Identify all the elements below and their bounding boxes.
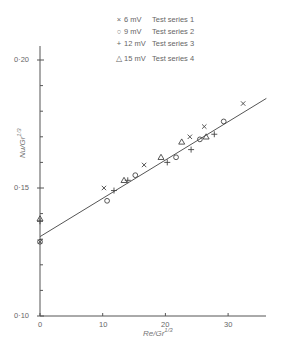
triangle-marker-icon — [158, 154, 164, 159]
o-marker-icon — [133, 173, 138, 178]
x-tick-label-10: 10 — [99, 320, 107, 329]
y-tick-label-015: 0·15 — [14, 183, 29, 192]
data-points — [37, 101, 245, 244]
y-tick-label-010: 0·10 — [14, 311, 29, 320]
x-marker-icon — [142, 163, 146, 167]
legend-voltage: 12 mV — [124, 38, 152, 50]
legend-voltage: 15 mV — [124, 53, 152, 65]
legend-label: Test series 4 — [152, 53, 194, 65]
x-marker-icon — [102, 186, 106, 190]
legend-item-series-4: △ 15 mV Test series 4 — [114, 53, 194, 65]
axes — [37, 46, 266, 316]
o-marker-icon — [174, 155, 179, 160]
y-axis-title: Nu/Gr1/3 — [16, 128, 27, 158]
x-marker-icon — [202, 124, 206, 128]
triangle-marker-icon — [179, 139, 185, 144]
x-marker-icon — [188, 135, 192, 139]
legend-label: Test series 2 — [152, 26, 194, 38]
regression-line — [40, 98, 266, 236]
circle-marker-icon: ○ — [114, 26, 124, 38]
legend-voltage: 9 mV — [124, 26, 152, 38]
legend-item-series-1: × 6 mV Test series 1 — [114, 14, 194, 26]
plus-marker-icon: + — [114, 38, 124, 50]
legend-item-series-2: ○ 9 mV Test series 2 — [114, 26, 194, 38]
+-marker-icon — [211, 131, 217, 137]
legend-item-series-3: + 12 mV Test series 3 — [114, 38, 194, 50]
x-tick-label-30: 30 — [224, 320, 232, 329]
legend-label: Test series 1 — [152, 14, 194, 26]
+-marker-icon — [188, 147, 194, 153]
triangle-marker-icon: △ — [114, 53, 124, 65]
legend: × 6 mV Test series 1 ○ 9 mV Test series … — [114, 14, 194, 65]
o-marker-icon — [221, 119, 226, 124]
y-tick-label-020: 0·20 — [14, 55, 29, 64]
legend-label: Test series 3 — [152, 38, 194, 50]
legend-voltage: 6 mV — [124, 14, 152, 26]
o-marker-icon — [105, 198, 110, 203]
x-axis-title: Re/Gr1/3 — [143, 327, 173, 338]
x-tick-label-0: 0 — [38, 320, 42, 329]
x-marker-icon — [241, 101, 245, 105]
x-marker-icon: × — [114, 14, 124, 26]
fit-line — [40, 98, 266, 236]
